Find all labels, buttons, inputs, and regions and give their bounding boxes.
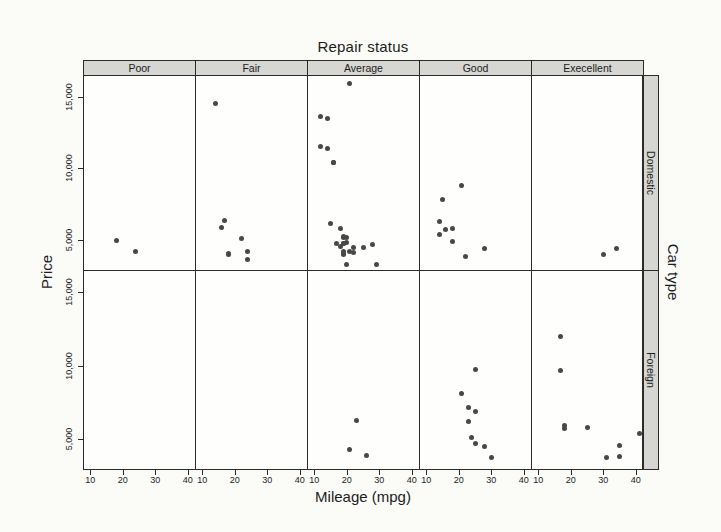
plot-area xyxy=(83,75,643,470)
x-tick-mark xyxy=(347,470,348,475)
x-tick-mark xyxy=(267,470,268,475)
trellis-chart: Repair status PoorFairAverageGoodExecell… xyxy=(0,0,721,532)
row-strip-label: Domestic xyxy=(645,151,657,195)
x-tick-label: 40 xyxy=(407,475,417,485)
x-tick-mark xyxy=(188,470,189,475)
x-tick-label: 20 xyxy=(566,475,576,485)
x-tick-label: 20 xyxy=(230,475,240,485)
x-tick-label: 40 xyxy=(183,475,193,485)
x-tick-label: 10 xyxy=(309,475,319,485)
x-tick-mark xyxy=(538,470,539,475)
x-tick-mark xyxy=(90,470,91,475)
x-tick-mark xyxy=(459,470,460,475)
x-tick-mark xyxy=(300,470,301,475)
x-tick-mark xyxy=(202,470,203,475)
column-strip-good: Good xyxy=(419,60,532,76)
x-tick-label: 20 xyxy=(118,475,128,485)
x-tick-mark xyxy=(636,470,637,475)
y-tick-label: 10,000 xyxy=(64,352,74,380)
y-tick-label: 5,000 xyxy=(64,229,74,252)
x-tick-mark xyxy=(426,470,427,475)
x-tick-mark xyxy=(235,470,236,475)
x-tick-mark xyxy=(123,470,124,475)
y-tick-label: 15,000 xyxy=(64,83,74,111)
x-tick-label: 30 xyxy=(150,475,160,485)
y-tick-label: 10,000 xyxy=(64,154,74,182)
x-tick-mark xyxy=(603,470,604,475)
column-strip-average: Average xyxy=(307,60,420,76)
x-tick-label: 40 xyxy=(295,475,305,485)
x-tick-label: 10 xyxy=(197,475,207,485)
column-strip-label: Fair xyxy=(242,62,260,74)
x-tick-mark xyxy=(314,470,315,475)
x-tick-label: 30 xyxy=(486,475,496,485)
column-strip-execellent: Execellent xyxy=(531,60,644,76)
x-tick-label: 30 xyxy=(374,475,384,485)
x-tick-label: 10 xyxy=(421,475,431,485)
x-tick-label: 10 xyxy=(85,475,95,485)
x-tick-label: 20 xyxy=(342,475,352,485)
y-tick-label: 15,000 xyxy=(64,278,74,306)
y-tick-label: 5,000 xyxy=(64,428,74,451)
x-tick-label: 40 xyxy=(519,475,529,485)
x-tick-label: 20 xyxy=(454,475,464,485)
x-tick-label: 40 xyxy=(631,475,641,485)
x-tick-mark xyxy=(155,470,156,475)
x-tick-label: 10 xyxy=(533,475,543,485)
column-strip-label: Execellent xyxy=(563,62,611,74)
y-axis-title: Price xyxy=(38,255,55,289)
column-strip-label: Average xyxy=(344,62,383,74)
column-strip-label: Poor xyxy=(128,62,150,74)
x-axis-title: Mileage (mpg) xyxy=(315,488,411,505)
x-tick-mark xyxy=(524,470,525,475)
x-tick-label: 30 xyxy=(598,475,608,485)
chart-title: Repair status xyxy=(83,38,643,55)
x-tick-mark xyxy=(571,470,572,475)
row-strip-foreign: Foreign xyxy=(643,270,659,470)
row-axis-title: Car type xyxy=(665,244,682,301)
x-tick-mark xyxy=(491,470,492,475)
x-tick-mark xyxy=(412,470,413,475)
x-tick-label: 30 xyxy=(262,475,272,485)
column-strip-poor: Poor xyxy=(83,60,196,76)
column-strip-label: Good xyxy=(463,62,489,74)
column-strip-fair: Fair xyxy=(195,60,308,76)
row-strip-label: Foreign xyxy=(645,352,657,388)
row-strip-domestic: Domestic xyxy=(643,75,659,271)
x-tick-mark xyxy=(379,470,380,475)
